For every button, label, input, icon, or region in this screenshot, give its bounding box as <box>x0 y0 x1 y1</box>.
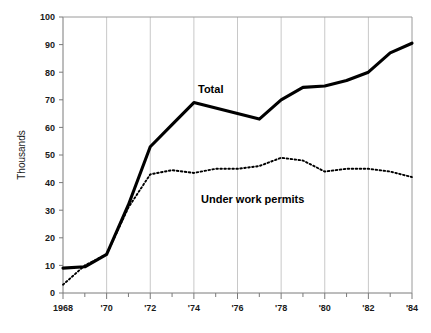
x-tick-label-1980: '80 <box>319 303 331 313</box>
y-tick-label-90: 90 <box>45 40 55 50</box>
x-tick-label-1974: '74 <box>188 303 200 313</box>
series-label-under-work-permits: Under work permits <box>201 193 304 205</box>
x-tick-label-1976: '76 <box>231 303 243 313</box>
x-tick-label-1984: '84 <box>406 303 418 313</box>
x-tick-label-1978: '78 <box>275 303 287 313</box>
y-tick-label-10: 10 <box>45 261 55 271</box>
x-tick-label-1970: '70 <box>101 303 113 313</box>
series-label-total: Total <box>198 83 223 95</box>
x-tick-label-1982: '82 <box>362 303 374 313</box>
x-tick-label-1968: 1968 <box>53 303 73 313</box>
x-tick-label-1972: '72 <box>144 303 156 313</box>
y-tick-label-100: 100 <box>40 12 55 22</box>
line-chart: 0102030405060708090100 1968'70'72'74'76'… <box>0 0 431 333</box>
y-tick-label-20: 20 <box>45 233 55 243</box>
y-axis-title: Thousands <box>16 130 27 179</box>
y-tick-label-30: 30 <box>45 206 55 216</box>
y-tick-label-80: 80 <box>45 68 55 78</box>
x-axis-tick-labels-group: 1968'70'72'74'76'78'80'82'84 <box>53 303 418 313</box>
y-tick-label-0: 0 <box>50 288 55 298</box>
y-tick-label-60: 60 <box>45 123 55 133</box>
y-tick-label-50: 50 <box>45 150 55 160</box>
chart-container: 0102030405060708090100 1968'70'72'74'76'… <box>0 0 431 333</box>
y-tick-label-40: 40 <box>45 178 55 188</box>
y-tick-label-70: 70 <box>45 95 55 105</box>
